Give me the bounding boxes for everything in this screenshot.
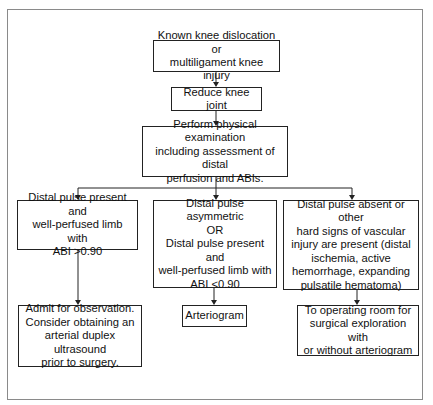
node-branch-pulse-asymmetric: Distal pulse asymmetric OR Distal pulse …	[153, 200, 277, 288]
node-text: Perform physical examination including a…	[146, 118, 284, 185]
node-outcome-admit-observation: Admit for observation. Consider obtainin…	[18, 305, 142, 367]
node-outcome-operating-room: To operating room for surgical explorati…	[297, 305, 419, 356]
node-text: Arteriogram	[185, 309, 243, 322]
node-reduce-knee-joint: Reduce knee joint	[171, 87, 262, 111]
node-branch-pulse-present: Distal pulse present and well-perfused l…	[17, 200, 138, 250]
node-text: To operating room for surgical explorati…	[301, 304, 415, 358]
node-text: Reduce knee joint	[175, 86, 258, 113]
node-physical-examination: Perform physical examination including a…	[142, 126, 288, 177]
node-text: Distal pulse asymmetric OR Distal pulse …	[157, 197, 273, 291]
node-text: Distal pulse absent or other hard signs …	[287, 198, 415, 292]
node-text: Admit for observation. Consider obtainin…	[22, 302, 138, 369]
node-branch-pulse-absent: Distal pulse absent or other hard signs …	[283, 200, 419, 290]
node-known-knee-dislocation: Known knee dislocation or multiligament …	[153, 40, 280, 72]
node-text: Distal pulse present and well-perfused l…	[21, 191, 134, 258]
node-outcome-arteriogram: Arteriogram	[182, 305, 247, 327]
node-text: Known knee dislocation or multiligament …	[157, 29, 276, 83]
